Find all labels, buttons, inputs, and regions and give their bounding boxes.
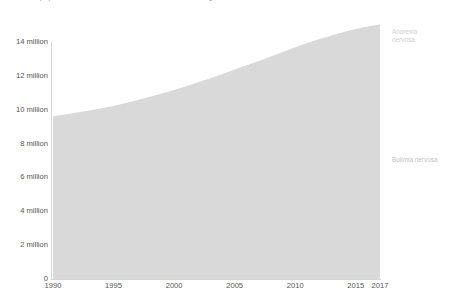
x-tick-label: 1995 xyxy=(105,281,122,290)
chart-root: Total number of people with anorexia and… xyxy=(0,0,471,301)
x-tick-label: 2015 xyxy=(347,281,364,290)
series-label-bulimia: Bulimia nervosa xyxy=(392,156,437,164)
x-tick-label: 2005 xyxy=(226,281,243,290)
y-tick-label: 8 million xyxy=(0,139,48,148)
y-tick-label: 0 xyxy=(0,274,48,283)
y-axis-line xyxy=(51,42,52,280)
x-axis-line xyxy=(51,279,381,280)
series-label-anorexia-line2: nervosa xyxy=(392,36,415,43)
series-label-anorexia: Anorexia nervosa xyxy=(392,28,417,44)
y-tick-label: 4 million xyxy=(0,206,48,215)
y-tick-label: 6 million xyxy=(0,172,48,181)
x-tick-label: 1990 xyxy=(45,281,62,290)
x-tick-label: 2017 xyxy=(372,281,389,290)
area-band-anorexia xyxy=(53,24,380,279)
y-tick-label: 10 million xyxy=(0,105,48,114)
plot-area xyxy=(53,0,380,279)
x-tick-label: 2010 xyxy=(287,281,304,290)
series-label-anorexia-line1: Anorexia xyxy=(392,28,417,35)
y-tick-label: 14 million xyxy=(0,37,48,46)
y-tick-label: 12 million xyxy=(0,71,48,80)
y-tick-label: 2 million xyxy=(0,240,48,249)
area-chart-svg xyxy=(53,0,380,279)
x-tick-label: 2000 xyxy=(166,281,183,290)
